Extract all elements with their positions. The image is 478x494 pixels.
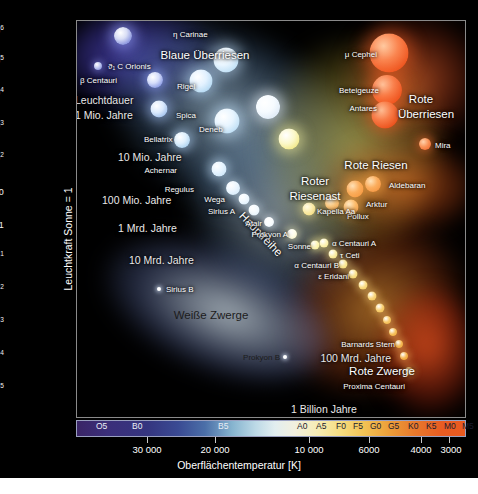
x-tick-mark — [369, 437, 370, 443]
y-tick-label: 1 — [0, 220, 4, 230]
star-epsilon-eridani — [349, 270, 358, 279]
spectral-label-g0: G0 — [370, 421, 381, 431]
star-ms-dot-5 — [389, 328, 397, 336]
star-beta-centauri — [147, 72, 163, 88]
label-blaue-ueberriesen: Blaue Überriesen — [161, 49, 250, 61]
label-weisse-zwerge: Weiße Zwerge — [174, 309, 249, 321]
label-arktur: Arktur — [366, 200, 387, 209]
label-mira: Mira — [435, 141, 451, 150]
spectral-label-k5: K5 — [426, 421, 436, 431]
star-aldebaran — [365, 176, 381, 192]
x-tick-label: 10 000 — [294, 444, 323, 455]
y-tick-label: 10 — [0, 187, 4, 197]
y-tick-label: 103 — [0, 121, 4, 131]
label-mu-cephei: μ Cephei — [345, 50, 377, 59]
star-bellatrix — [174, 132, 190, 148]
x-tick-mark — [215, 437, 216, 443]
y-axis-label: Leuchtkraft Sonne = 1 — [62, 187, 74, 290]
x-tick-mark — [421, 437, 422, 443]
star-ms-dot-2 — [368, 292, 377, 301]
spectral-label-m5: M5 — [462, 421, 474, 431]
label-rote-ueberriesen-line1: Rote — [409, 93, 433, 105]
x-tick-label: 4000 — [410, 444, 431, 455]
star-achernar — [212, 162, 227, 177]
star-kapella-aa — [303, 203, 316, 216]
x-axis-label: Oberflächentemperatur [K] — [0, 459, 478, 471]
label-epsilon-eridani: ε Eridani — [318, 272, 349, 281]
label-1-mio-jahre: 1 Mio. Jahre — [76, 109, 133, 121]
x-tick-mark — [309, 437, 310, 443]
label-rote-riesen: Rote Riesen — [344, 159, 407, 171]
label-regulus: Regulus — [165, 185, 194, 194]
label-beteigeuze: Beteigeuze — [339, 86, 379, 95]
label-rigel: Rigel — [177, 82, 195, 91]
label-kapella-aa: Kapella Aa — [317, 207, 355, 216]
y-tick-label: 10-5 — [0, 384, 4, 394]
star-ms-dot-3 — [376, 304, 385, 313]
star-spica — [151, 101, 168, 118]
label-prokyon-a: Prokyon A — [252, 230, 288, 239]
y-tick-label: 106 — [0, 26, 4, 36]
label-rote-zwerge: Rote Zwerge — [349, 365, 415, 377]
spectral-label-f0: F0 — [336, 421, 346, 431]
star-barnards-stern — [395, 340, 403, 348]
star-mira — [419, 138, 431, 150]
spectral-label-f5: F5 — [353, 421, 363, 431]
star-ms-dot-6 — [400, 352, 408, 360]
label-10-mrd-jahre: 10 Mrd. Jahre — [129, 254, 194, 266]
y-tick-label: 10-1 — [0, 252, 4, 262]
label-1-mrd-jahre: 1 Mrd. Jahre — [118, 222, 177, 234]
x-tick-label: 20 000 — [200, 444, 229, 455]
label-achernar: Achernar — [145, 166, 177, 175]
label-100-mrd-jahre: 100 Mrd. Jahre — [320, 352, 391, 364]
label-alpha-centauri-b: α Centauri B — [294, 261, 339, 270]
label-deneb: Deneb — [199, 125, 223, 134]
label-spica: Spica — [176, 111, 196, 120]
star-alpha-centauri-b — [339, 260, 348, 269]
x-tick-label: 6000 — [358, 444, 379, 455]
star-prokyon-a — [287, 229, 297, 239]
label-sirius-b: Sirius B — [166, 285, 194, 294]
star-sirius-b — [157, 287, 161, 291]
label-alpha-centauri-a: α Centauri A — [332, 239, 376, 248]
x-tick-label: 30 000 — [132, 444, 161, 455]
spectral-label-o5: O5 — [96, 421, 107, 431]
star-white-upper — [256, 95, 280, 119]
star-theta1-c-orionis — [94, 62, 102, 70]
label-100-mio-jahre: 100 Mio. Jahre — [102, 194, 171, 206]
label-wega: Wega — [204, 195, 225, 204]
spectral-label-m0: M0 — [444, 421, 456, 431]
label-proxima-centauri: Proxima Centauri — [343, 382, 405, 391]
label-barnards-stern: Barnards Stern — [341, 340, 395, 349]
hr-diagram-figure: Leuchtkraft Sonne = 1 106 105 104 103 10… — [0, 0, 478, 494]
spectral-label-a0: A0 — [297, 421, 307, 431]
star-eta-carinae — [114, 27, 132, 45]
label-1-billion-jahre: 1 Billion Jahre — [291, 403, 357, 415]
spectral-label-g5: G5 — [388, 421, 399, 431]
star-tau-ceti — [329, 250, 338, 259]
x-tick-mark — [449, 437, 450, 443]
label-roter-riesenast-line2: Riesenast — [289, 190, 340, 202]
label-atair: Atair — [246, 219, 262, 228]
label-aldebaran: Aldebaran — [389, 181, 425, 190]
label-eta-carinae: η Carinae — [173, 30, 208, 39]
label-tau-ceti: τ Ceti — [340, 251, 360, 260]
plot-area: η Carinae Blaue Überriesen ϑ₁ C Orionis … — [76, 20, 466, 418]
label-10-mio-jahre: 10 Mio. Jahre — [118, 151, 182, 163]
y-tick-label: 10-4 — [0, 351, 4, 361]
y-tick-label: 105 — [0, 56, 4, 66]
figure-panel: Leuchtkraft Sonne = 1 106 105 104 103 10… — [0, 0, 478, 478]
y-tick-label: 102 — [0, 153, 4, 163]
spectral-label-b0: B0 — [132, 421, 142, 431]
label-beta-centauri: β Centauri — [80, 76, 117, 85]
label-theta1-c-orionis: ϑ₁ C Orionis — [108, 62, 151, 71]
label-sonne: Sonne — [288, 242, 311, 251]
y-tick-label: 10-3 — [0, 318, 4, 328]
star-ms-dot-1 — [359, 281, 368, 290]
star-ms-dot-4 — [383, 316, 391, 324]
star-red-giant-1 — [347, 181, 364, 198]
star-sonne — [311, 241, 320, 250]
y-tick-label: 10-2 — [0, 285, 4, 295]
spectral-label-a5: A5 — [316, 421, 326, 431]
label-prokyon-b: Prokyon B — [243, 353, 280, 362]
